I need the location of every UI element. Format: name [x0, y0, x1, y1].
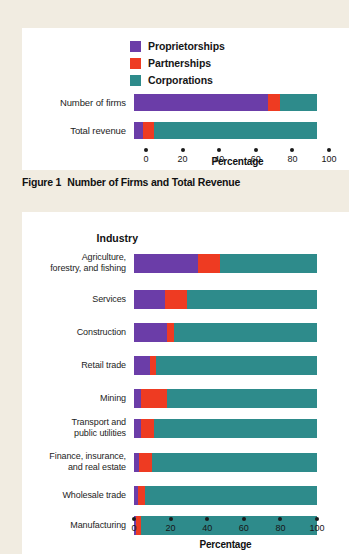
legend-item-label: Corporations — [148, 75, 213, 86]
figure2-bar-label-line: forestry, and fishing — [22, 263, 126, 274]
figure2-bar-label: Transport andpublic utilities — [22, 417, 134, 439]
figure2-bar-row: Construction — [22, 319, 349, 345]
figure2-bar-track — [134, 389, 317, 408]
figure1-axis-title: Percentage — [146, 156, 329, 167]
axis-tick-label: 60 — [239, 523, 249, 533]
bar-segment-partnerships — [141, 419, 154, 438]
figure2-bar-label-line: Mining — [22, 393, 126, 404]
figure2-bar-label-line: Manufacturing — [22, 520, 126, 531]
axis-tick-label: 80 — [275, 523, 285, 533]
axis-tick-dot — [144, 148, 148, 152]
figure2-bar-label: Services — [22, 294, 134, 305]
axis-tick-dot — [242, 517, 246, 521]
figure2-bar-label: Agriculture,forestry, and fishing — [22, 252, 134, 274]
bar-segment-partnerships — [143, 122, 154, 139]
figure2-industry-heading: Industry — [22, 232, 146, 244]
figure2-bar-label: Retail trade — [22, 360, 134, 371]
bar-segment-partnerships — [198, 254, 220, 273]
bar-segment-corporations — [145, 486, 317, 505]
axis-tick-dot — [290, 148, 294, 152]
figure1-axis-tick-dots — [146, 146, 337, 154]
bar-segment-corporations — [280, 94, 317, 111]
bar-segment-proprietorships — [134, 356, 150, 375]
axis-tick-dot — [315, 517, 319, 521]
figure1-caption: Figure 1Number of Firms and Total Revenu… — [22, 176, 240, 188]
figure2-bar-label: Mining — [22, 393, 134, 404]
axis-tick-label: 20 — [166, 523, 176, 533]
figure2-bar-label-line: Agriculture, — [22, 252, 126, 263]
figure2-axis-tick-labels: 020406080100 — [134, 523, 325, 535]
figure2-bar-row: Transport andpublic utilities — [22, 415, 349, 441]
figure1-caption-text: Number of Firms and Total Revenue — [67, 176, 240, 188]
figure1-legend: ProprietorshipsPartnershipsCorporations — [130, 39, 225, 90]
figure2-bar-row: Finance, insurance,and real estate — [22, 449, 349, 475]
figure2-bar-label-line: Transport and — [22, 417, 126, 428]
axis-tick-label: 40 — [202, 523, 212, 533]
legend-item: Proprietorships — [130, 39, 225, 54]
bar-segment-corporations — [152, 453, 317, 472]
figure2-bar-label-line: Wholesale trade — [22, 490, 126, 501]
figure2-bar-track — [134, 323, 317, 342]
figure1-bar-label: Total revenue — [22, 125, 134, 136]
bar-segment-proprietorships — [134, 254, 198, 273]
figure2-bar-track — [134, 290, 317, 309]
figure2-bar-label-line: Retail trade — [22, 360, 126, 371]
figure2-bar-label: Construction — [22, 327, 134, 338]
figure2-axis-title: Percentage — [134, 539, 317, 550]
axis-tick-label: 100 — [309, 523, 324, 533]
axis-tick-dot — [169, 517, 173, 521]
figure2-bar-label-line: Construction — [22, 327, 126, 338]
bar-segment-proprietorships — [134, 94, 268, 111]
bar-segment-partnerships — [268, 94, 281, 111]
axis-tick-dot — [205, 517, 209, 521]
axis-tick-dot — [278, 517, 282, 521]
figure2-bar-label-line: and real estate — [22, 462, 126, 473]
bar-segment-partnerships — [138, 486, 145, 505]
bar-segment-proprietorships — [134, 323, 167, 342]
bar-segment-corporations — [187, 290, 317, 309]
bar-segment-proprietorships — [134, 290, 165, 309]
figure1-bar-label: Number of firms — [22, 97, 134, 108]
figure2-bar-label: Wholesale trade — [22, 490, 134, 501]
figure2-bar-track — [134, 356, 317, 375]
legend-item-label: Partnerships — [148, 58, 211, 69]
figure2-bar-track — [134, 486, 317, 505]
figure1-bar-track — [134, 122, 317, 139]
bar-segment-corporations — [220, 254, 317, 273]
legend-item: Corporations — [130, 73, 225, 88]
figure2-bar-row: Mining — [22, 385, 349, 411]
bar-segment-corporations — [174, 323, 317, 342]
axis-tick-dot — [254, 148, 258, 152]
figure2-bar-row: Wholesale trade — [22, 482, 349, 508]
bar-segment-corporations — [154, 419, 317, 438]
axis-tick-dot — [181, 148, 185, 152]
figure2-bar-track — [134, 453, 317, 472]
bar-segment-partnerships — [165, 290, 187, 309]
figure2-x-axis: 020406080100 — [134, 515, 325, 535]
legend-swatch-corporations — [130, 75, 141, 86]
bar-segment-proprietorships — [134, 389, 141, 408]
figure1-panel: ProprietorshipsPartnershipsCorporations … — [22, 28, 349, 170]
legend-item: Partnerships — [130, 56, 225, 71]
figure2-bar-label: Manufacturing — [22, 520, 134, 531]
bar-segment-partnerships — [139, 453, 152, 472]
bar-segment-proprietorships — [134, 419, 141, 438]
bar-segment-corporations — [154, 122, 317, 139]
figure2-bar-track — [134, 254, 317, 273]
bar-segment-corporations — [167, 389, 317, 408]
figure2-bar-label-line: public utilities — [22, 428, 126, 439]
figure1-bar-row: Total revenue — [22, 120, 349, 140]
axis-tick-label: 0 — [131, 523, 136, 533]
figure2-panel: Industry Agriculture,forestry, and fishi… — [22, 212, 349, 554]
figure2-bar-label: Finance, insurance,and real estate — [22, 451, 134, 473]
legend-swatch-partnerships — [130, 58, 141, 69]
figure2-bar-row: Retail trade — [22, 352, 349, 378]
figure-page: ProprietorshipsPartnershipsCorporations … — [0, 0, 349, 554]
legend-swatch-proprietorships — [130, 41, 141, 52]
figure1-caption-number: Figure 1 — [22, 176, 61, 188]
figure2-bar-row: Agriculture,forestry, and fishing — [22, 250, 349, 276]
axis-tick-dot — [327, 148, 331, 152]
figure2-bar-track — [134, 419, 317, 438]
figure2-bar-label-line: Services — [22, 294, 126, 305]
axis-tick-dot — [217, 148, 221, 152]
